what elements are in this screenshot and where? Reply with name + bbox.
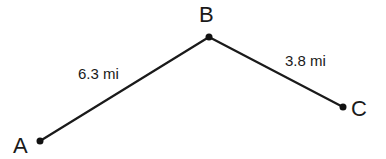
point-b-dot xyxy=(206,34,213,41)
segment-a-b xyxy=(40,37,209,141)
point-c-label: C xyxy=(351,96,367,121)
distance-b-c-label: 3.8 mi xyxy=(285,52,326,69)
diagram-svg: A B C 6.3 mi 3.8 mi xyxy=(0,0,386,159)
point-a-label: A xyxy=(13,133,28,158)
distance-a-b-label: 6.3 mi xyxy=(78,65,119,82)
point-a-dot xyxy=(37,138,44,145)
point-b-label: B xyxy=(199,2,214,27)
segment-b-c xyxy=(209,37,343,107)
point-c-dot xyxy=(340,104,347,111)
distance-diagram: A B C 6.3 mi 3.8 mi xyxy=(0,0,386,159)
